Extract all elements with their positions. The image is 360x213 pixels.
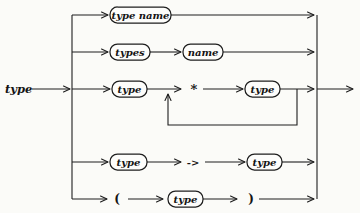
node-type-fn-left-label: type [117,157,141,168]
type-syntax-diagram: type type name types name type * type [0,0,360,213]
diagram-canvas: type type name types name type * type [0,0,360,213]
literal-arrow-op: -> [187,157,200,168]
node-type-tuple-right-label: type [251,84,275,95]
node-type-tuple-left-label: type [118,84,142,95]
literal-lparen: ( [114,192,120,206]
node-name-label: name [188,47,219,58]
node-type-paren-label: type [174,194,198,205]
node-types-label: types [115,47,145,58]
entry-label: type [5,82,32,96]
literal-rparen: ) [248,192,254,206]
literal-star: * [191,82,198,97]
node-type-fn-right-label: type [253,157,277,168]
node-type-name-label: type name [112,10,170,21]
